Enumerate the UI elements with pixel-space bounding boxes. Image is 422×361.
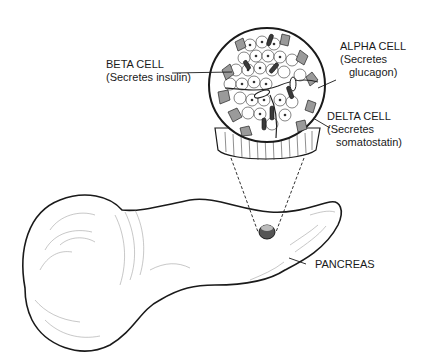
- alpha-cell-description-line1: (Secretes: [340, 53, 406, 66]
- pancreas-organ: [23, 195, 341, 351]
- alpha-cell-description-line2: glucagon): [340, 66, 406, 79]
- beta-cell-description: (Secretes insulin): [106, 71, 191, 84]
- beta-cell-label: BETA CELL (Secretes insulin): [106, 58, 191, 84]
- alpha-cell-title: ALPHA CELL: [340, 40, 406, 53]
- pancreas-label: PANCREAS: [315, 258, 375, 271]
- pancreas-title: PANCREAS: [315, 258, 375, 270]
- delta-cell-description-line1: (Secretes: [327, 123, 402, 136]
- delta-cell-title: DELTA CELL: [327, 110, 402, 123]
- islet-cross-section: [209, 28, 325, 160]
- delta-cell-description-line2: somatostatin): [327, 136, 402, 149]
- delta-cell-label: DELTA CELL (Secretes somatostatin): [327, 110, 402, 149]
- alpha-cell-label: ALPHA CELL (Secretes glucagon): [340, 40, 406, 79]
- beta-cell-title: BETA CELL: [106, 58, 191, 71]
- tissue-sample: [259, 225, 275, 239]
